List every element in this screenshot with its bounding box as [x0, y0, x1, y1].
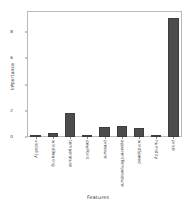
- x-tick-mark: [87, 137, 88, 139]
- x-tick-label: apparentTemperature: [120, 140, 124, 187]
- x-axis-title: Features: [0, 195, 196, 200]
- x-tick-label-wrap: pressure: [100, 140, 110, 184]
- x-tick-label: visibility: [33, 140, 37, 158]
- x-tick-mark: [70, 137, 71, 139]
- y-tick-mark: [25, 137, 27, 138]
- figure: Importance Features 02468visibilitywindB…: [0, 0, 196, 209]
- x-tick-mark: [105, 137, 106, 139]
- x-tick-label-wrap: windBearing: [48, 140, 58, 184]
- x-tick-label-wrap: price: [168, 140, 178, 184]
- x-tick-mark: [173, 137, 174, 139]
- x-tick-label: dewPoint: [85, 140, 89, 160]
- x-tick-label: price: [171, 140, 175, 151]
- x-tick-mark: [122, 137, 123, 139]
- bar: [134, 128, 144, 137]
- y-tick-mark: [25, 110, 27, 111]
- bar: [65, 113, 75, 137]
- y-tick-label: 6: [0, 56, 13, 60]
- x-tick-label-wrap: temperature: [65, 140, 75, 184]
- y-tick-mark: [25, 84, 27, 85]
- x-tick-label-wrap: apparentTemperature: [117, 140, 127, 184]
- x-tick-label: temperature: [68, 140, 72, 167]
- y-tick-label: 8: [0, 30, 13, 34]
- bar: [99, 127, 109, 137]
- y-tick-mark: [25, 32, 27, 33]
- x-tick-mark: [36, 137, 37, 139]
- x-tick-label-wrap: humidity: [151, 140, 161, 184]
- x-tick-label-wrap: visibility: [31, 140, 41, 184]
- plot-area: [27, 11, 182, 137]
- y-tick-label: 4: [0, 82, 13, 86]
- x-tick-label: windSpeed: [137, 140, 141, 164]
- x-tick-label-wrap: dewPoint: [82, 140, 92, 184]
- x-tick-label: windBearing: [51, 140, 55, 167]
- y-tick-mark: [25, 58, 27, 59]
- x-tick-label-wrap: windSpeed: [134, 140, 144, 184]
- x-tick-label: pressure: [102, 140, 106, 159]
- x-tick-mark: [53, 137, 54, 139]
- x-tick-label: humidity: [154, 140, 158, 159]
- y-tick-label: 0: [0, 135, 13, 139]
- x-tick-mark: [156, 137, 157, 139]
- y-tick-label: 2: [0, 109, 13, 113]
- bar: [117, 126, 127, 137]
- bar: [168, 18, 178, 137]
- x-tick-mark: [139, 137, 140, 139]
